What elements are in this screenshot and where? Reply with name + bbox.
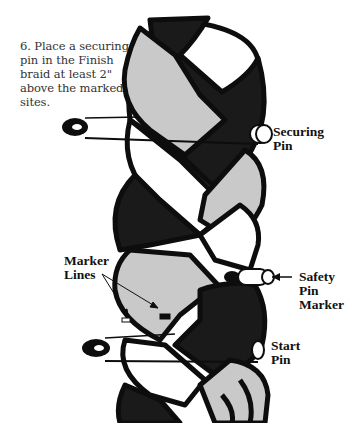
- label-line: Securing: [273, 125, 324, 139]
- label-line: Pin: [299, 284, 344, 298]
- marker-line-mark: [160, 314, 170, 319]
- label-line: Marker: [64, 254, 109, 268]
- braid-diagram: 6. Place a securing pin in the Finish br…: [0, 0, 359, 423]
- label-line: Marker: [299, 298, 344, 312]
- label-safety-pin-marker: Safety Pin Marker: [299, 270, 344, 312]
- instruction-text: 6. Place a securing pin in the Finish br…: [20, 39, 130, 109]
- instruction-line: pin in the Finish: [20, 53, 114, 67]
- instruction-line: 6. Place a securing: [20, 39, 129, 53]
- label-start-pin: Start Pin: [271, 339, 300, 367]
- instruction-line: above the marked: [20, 81, 123, 95]
- label-line: Start: [271, 339, 300, 353]
- label-marker-lines: Marker Lines: [64, 254, 109, 282]
- safety-pin-marker-icon: [224, 269, 292, 285]
- label-line: Lines: [64, 268, 109, 282]
- label-securing-pin: Securing Pin: [273, 125, 324, 153]
- label-line: Pin: [271, 353, 300, 367]
- label-line: Pin: [273, 139, 324, 153]
- label-line: Safety: [299, 270, 344, 284]
- instruction-line: braid at least 2": [20, 67, 112, 81]
- instruction-line: sites.: [20, 95, 50, 109]
- marker-line-mark: [122, 318, 130, 322]
